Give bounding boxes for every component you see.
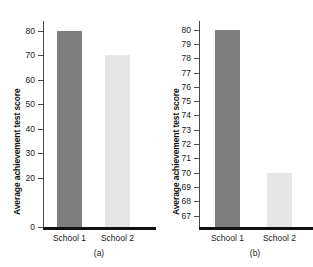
chart-panel-b: Average achievement test score 676869707… [160, 0, 313, 267]
bar [105, 55, 130, 227]
y-tick-label: 68 [182, 197, 191, 206]
y-tick-mark: 60 [38, 80, 43, 81]
y-tick-label: 73 [182, 125, 191, 134]
y-tick-mark: 77 [194, 73, 199, 74]
y-tick-mark: 73 [194, 130, 199, 131]
y-tick-mark: 50 [38, 104, 43, 105]
y-tick-mark: 71 [194, 158, 199, 159]
y-tick-label: 70 [26, 51, 35, 60]
panel-caption-b: (b) [250, 248, 260, 258]
y-tick-mark: 70 [38, 55, 43, 56]
plot-area-a: 020304050607080 [43, 21, 155, 227]
x-axis-line [199, 227, 313, 230]
y-tick-mark: 30 [38, 153, 43, 154]
x-axis-category-label: School 2 [263, 233, 296, 243]
y-tick-mark: 69 [194, 187, 199, 188]
bar [267, 173, 292, 227]
y-tick-label: 60 [26, 76, 35, 85]
x-axis-category-label: School 2 [101, 233, 134, 243]
y-tick-label: 74 [182, 111, 191, 120]
y-tick-label: 69 [182, 183, 191, 192]
y-tick-mark: 76 [194, 87, 199, 88]
y-axis-line [43, 21, 44, 227]
y-tick-label: 50 [26, 100, 35, 109]
y-tick-mark: 40 [38, 129, 43, 130]
bar [215, 30, 240, 227]
figure-container: Average achievement test score 020304050… [0, 0, 313, 267]
y-tick-label: 79 [182, 40, 191, 49]
y-tick-label: 70 [182, 168, 191, 177]
y-tick-mark: 74 [194, 115, 199, 116]
y-tick-mark: 68 [194, 201, 199, 202]
y-tick-label: 72 [182, 140, 191, 149]
panel-caption-a: (a) [94, 248, 104, 258]
y-tick-label: 20 [26, 174, 35, 183]
y-tick-label: 40 [26, 125, 35, 134]
y-axis-title: Average achievement test score [171, 88, 181, 215]
y-tick-mark: 75 [194, 101, 199, 102]
y-axis-title: Average achievement test score [12, 88, 22, 215]
y-tick-label: 30 [26, 149, 35, 158]
y-tick-label: 77 [182, 68, 191, 77]
y-tick-mark: 67 [194, 216, 199, 217]
chart-panel-a: Average achievement test score 020304050… [0, 0, 160, 267]
y-tick-label: 78 [182, 54, 191, 63]
y-tick-label: 80 [26, 27, 35, 36]
y-tick-label: 67 [182, 211, 191, 220]
x-axis-category-label: School 1 [53, 233, 86, 243]
y-tick-mark: 80 [38, 31, 43, 32]
y-tick-mark: 70 [194, 173, 199, 174]
y-axis-line [199, 21, 200, 227]
y-tick-mark: 72 [194, 144, 199, 145]
y-tick-mark: 79 [194, 44, 199, 45]
y-tick-mark: 20 [38, 178, 43, 179]
y-tick-mark: 80 [194, 30, 199, 31]
y-tick-label: 71 [182, 154, 191, 163]
y-tick-label: 0 [30, 223, 35, 232]
y-tick-mark: 78 [194, 58, 199, 59]
y-tick-label: 75 [182, 97, 191, 106]
plot-area-b: 6768697071727374757677787980 [199, 21, 311, 227]
x-axis-line [43, 227, 156, 230]
y-tick-label: 80 [182, 25, 191, 34]
y-tick-label: 76 [182, 83, 191, 92]
x-axis-category-label: School 1 [211, 233, 244, 243]
bar [57, 31, 82, 227]
